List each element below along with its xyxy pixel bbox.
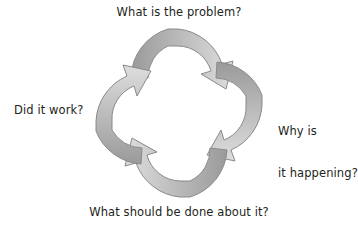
label-why-is-it-happening-line2: it happening? xyxy=(278,166,358,180)
label-did-it-work: Did it work? xyxy=(14,103,100,117)
cycle-diagram: What is the problem? Why is it happening… xyxy=(0,0,358,226)
label-why-is-it-happening: Why is it happening? xyxy=(278,96,358,208)
label-what-should-be-done-about-it: What should be done about it? xyxy=(0,205,358,219)
label-why-is-it-happening-line1: Why is xyxy=(278,124,358,138)
label-what-is-the-problem: What is the problem? xyxy=(0,5,358,19)
